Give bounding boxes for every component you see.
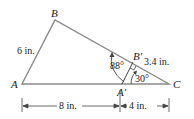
label-c: C [173, 78, 181, 90]
label-angle-30: 30° [135, 73, 149, 84]
label-aprime-c-length: 4 in. [129, 100, 147, 111]
label-a-prime: A′ [116, 86, 127, 98]
triangle-diagram: B A C A′ B′ 6 in. 3.4 in. 88° 30° 8 in. … [0, 0, 194, 119]
label-b: B [51, 7, 58, 19]
dimension-lines [22, 90, 169, 112]
label-a: A [10, 78, 18, 90]
label-a-aprime-length: 8 in. [59, 100, 77, 111]
label-b-prime: B′ [133, 50, 143, 62]
label-angle-88: 88° [110, 60, 124, 71]
label-ab-length: 6 in. [17, 45, 35, 56]
label-bprime-c-length: 3.4 in. [144, 56, 169, 67]
